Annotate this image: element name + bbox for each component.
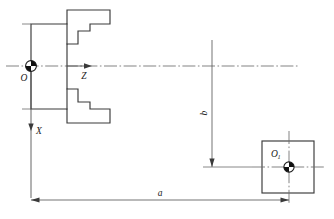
x-axis-arrow-head — [28, 124, 33, 132]
dimension-a-label: a — [158, 188, 163, 198]
origin-quadrant-ne — [31, 61, 36, 66]
drawing-canvas: Z X O O 1 b a — [0, 0, 334, 219]
origin-quadrant-sw — [26, 66, 31, 71]
x-axis-label: X — [35, 126, 43, 136]
origin-label-o: O — [21, 73, 28, 83]
z-axis-label: Z — [81, 71, 87, 81]
z-axis-arrow-head — [84, 63, 92, 69]
origin-marker-o1 — [284, 162, 294, 172]
stepped-bracket-profile — [31, 10, 110, 123]
origin-label-o1-subscript: 1 — [278, 153, 281, 160]
origin-quadrant-o1-ne — [289, 162, 294, 167]
dimension-a-arrow-head-right — [281, 197, 290, 202]
technical-drawing-figure: Z X O O 1 b a — [0, 0, 334, 219]
dimension-b-label: b — [199, 110, 209, 115]
origin-quadrant-o1-sw — [284, 167, 289, 172]
origin-marker-o — [26, 61, 37, 72]
dimension-b-arrow-head — [209, 159, 214, 168]
dimension-a-arrow-head-left — [31, 197, 40, 202]
